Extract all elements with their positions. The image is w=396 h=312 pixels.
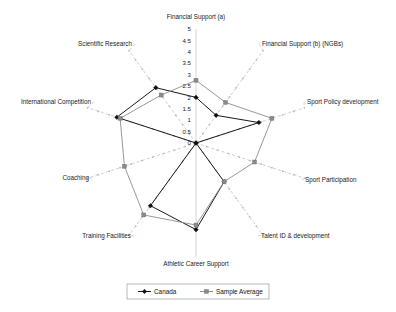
data-point-marker <box>194 227 199 232</box>
axis-label-sport-participation: Sport Participation <box>305 176 357 184</box>
radial-tick-label: 0.5 <box>183 128 192 135</box>
radial-tick-dot <box>173 149 175 151</box>
axis-label-financial-support-b-ngbs: Financial Support (b) (NGBs) <box>262 40 343 48</box>
radial-tick-dot <box>184 146 186 148</box>
radial-tick-dot <box>255 225 257 227</box>
radial-tick-dot <box>282 170 284 172</box>
radial-tick-dot <box>142 68 144 70</box>
axis-label-coaching: Coaching <box>62 174 89 182</box>
radial-tick-dot <box>229 188 231 190</box>
data-point-marker <box>194 78 198 82</box>
radial-tick-label: 4.5 <box>183 37 192 44</box>
radial-tick-dot <box>141 160 143 162</box>
radial-tick-label: 2 <box>188 94 192 101</box>
radial-tick-dot <box>98 110 100 112</box>
radial-tick-label: 2.5 <box>183 82 192 89</box>
data-point-marker <box>223 100 227 104</box>
radar-chart-svg: 00.511.522.533.544.55 Financial Support … <box>0 0 396 312</box>
radial-tick-dot <box>206 146 208 148</box>
data-point-marker <box>194 223 198 227</box>
series-polygons <box>117 80 272 229</box>
data-point-marker <box>257 120 262 125</box>
radial-tick-dot <box>260 163 262 165</box>
radial-tick-dot <box>235 197 237 199</box>
radial-tick-dot <box>175 114 177 116</box>
data-point-marker <box>122 164 126 168</box>
legend-marker-square-icon <box>205 290 209 294</box>
axis-label-financial-support-a: Financial Support (a) <box>167 13 225 21</box>
data-point-marker <box>142 213 146 217</box>
radial-tick-dot <box>108 114 110 116</box>
radial-tick-dot <box>249 68 251 70</box>
radial-tick-label: 1.5 <box>183 105 192 112</box>
radial-tick-dot <box>168 105 170 107</box>
radial-tick-dot <box>293 174 295 176</box>
radial-tick-dot <box>217 149 219 151</box>
legend-label-canada[interactable]: Canada <box>154 288 177 295</box>
radial-tick-dot <box>182 124 184 126</box>
radial-tick-dot <box>228 153 230 155</box>
data-point-marker <box>270 116 274 120</box>
axis-label-training-facilities: Training Facilities <box>82 232 131 240</box>
axis-label-athletic-career-support: Athletic Career Support <box>163 260 229 268</box>
radial-tick-dot <box>130 163 132 165</box>
radial-tick-dot <box>282 114 284 116</box>
axis-label-talent-id-development: Talent ID & development <box>261 232 330 240</box>
radial-tick-label: 3 <box>188 71 192 78</box>
data-point-marker <box>159 93 163 97</box>
radial-tick-labels: 00.511.522.533.544.55 <box>183 25 192 146</box>
radial-tick-dot <box>222 105 224 107</box>
radial-tick-label: 0 <box>188 139 192 146</box>
radial-tick-dot <box>135 59 137 61</box>
radial-tick-dot <box>209 124 211 126</box>
axis-label-international-competition: International Competition <box>21 98 92 106</box>
data-point-marker <box>253 160 257 164</box>
radial-tick-dot <box>229 96 231 98</box>
radial-tick-dot <box>235 87 237 89</box>
radial-tick-dot <box>255 59 257 61</box>
radial-tick-dot <box>135 225 137 227</box>
radial-tick-dot <box>98 174 100 176</box>
radial-tick-label: 3.5 <box>183 59 192 66</box>
radial-tick-dot <box>293 110 295 112</box>
data-point-marker <box>118 116 122 120</box>
radar-chart-figure: 00.511.522.533.544.55 Financial Support … <box>0 0 396 312</box>
axis-label-sport-policy-development: Sport Policy development <box>307 98 379 106</box>
radial-tick-dot <box>242 78 244 80</box>
chart-legend[interactable]: CanadaSample Average <box>127 284 269 299</box>
radial-tick-dot <box>242 207 244 209</box>
radial-tick-dot <box>249 216 251 218</box>
radial-tick-label: 1 <box>188 116 192 123</box>
axis-label-scientific-research: Scientific Research <box>78 40 132 47</box>
radial-tick-dot <box>152 156 154 158</box>
radial-tick-dot <box>202 133 204 135</box>
radial-tick-label: 5 <box>188 25 192 32</box>
radial-tick-dot <box>239 156 241 158</box>
radial-tick-dot <box>108 170 110 172</box>
radial-tick-dot <box>148 78 150 80</box>
radial-tick-dot <box>249 160 251 162</box>
axis-category-labels: Financial Support (a)Financial Support (… <box>21 13 379 268</box>
radial-tick-label: 4 <box>188 48 192 55</box>
radial-tick-dot <box>163 153 165 155</box>
data-point-marker <box>222 180 226 184</box>
legend-label-sample-average[interactable]: Sample Average <box>216 288 263 296</box>
radial-tick-dot <box>119 167 121 169</box>
radial-tick-dot <box>271 167 273 169</box>
